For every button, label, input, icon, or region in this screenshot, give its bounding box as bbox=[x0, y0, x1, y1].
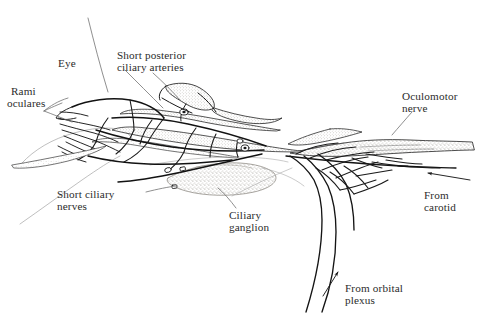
label-short-posterior-line1: Short posterior bbox=[117, 49, 186, 61]
label-eye: Eye bbox=[58, 57, 76, 69]
label-ciliary-ganglion-line2: ganglion bbox=[229, 221, 269, 233]
label-ciliary-ganglion-line1: Ciliary bbox=[229, 209, 261, 221]
label-rami-oculares-line2: oculares bbox=[7, 97, 45, 109]
leader-eye bbox=[88, 18, 108, 92]
label-short-posterior-line2: ciliary arteries bbox=[117, 61, 184, 73]
label-from-carotid-line1: From bbox=[424, 189, 449, 201]
label-from-carotid-line2: carotid bbox=[424, 201, 456, 213]
leader-short-ciliary bbox=[146, 186, 176, 192]
upper-artery-cluster bbox=[159, 83, 282, 123]
anatomical-figure: Eye Rami oculares Short posterior ciliar… bbox=[0, 0, 478, 317]
label-from-orbital-line2: plexus bbox=[345, 294, 375, 306]
label-short-ciliary-line2: nerves bbox=[57, 200, 87, 212]
label-rami-oculares-line1: Rami bbox=[11, 85, 36, 97]
from-carotid-arrow bbox=[428, 173, 470, 180]
short-posterior-ciliary-arteries bbox=[92, 109, 302, 158]
label-oculomotor-line1: Oculomotor bbox=[402, 90, 458, 102]
from-orbital-plexus-arrow bbox=[323, 272, 338, 296]
label-oculomotor-line2: nerve bbox=[402, 102, 428, 114]
anatomy-drawing bbox=[0, 0, 478, 317]
leader-oculomotor bbox=[392, 112, 412, 135]
label-short-ciliary-line1: Short ciliary bbox=[57, 188, 115, 200]
label-from-orbital-line1: From orbital bbox=[345, 282, 403, 294]
